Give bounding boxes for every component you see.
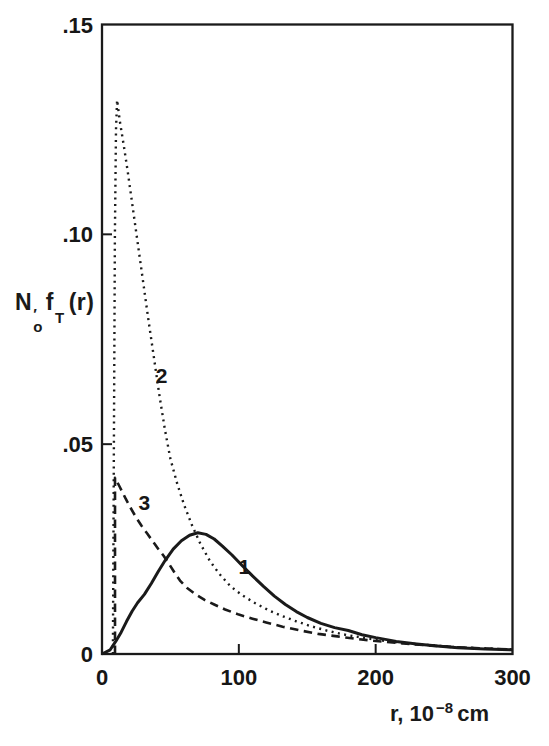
chart-canvas: 01002003000.05.10.15123 — [0, 0, 549, 746]
y-title-sub: o — [33, 320, 43, 333]
y-tick-label: .10 — [62, 222, 93, 247]
y-tick-label: 0 — [81, 642, 93, 667]
figure-root: 01002003000.05.10.15123 N′ofT(r) r, 10−8… — [0, 0, 549, 746]
x-axis-title: r, 10−8cm — [390, 701, 489, 727]
x-title-unit: cm — [457, 701, 489, 726]
y-tick-label: .05 — [62, 432, 93, 457]
x-tick-label: 0 — [96, 665, 108, 690]
y-tick-label: .15 — [62, 13, 93, 38]
x-tick-label: 200 — [357, 665, 394, 690]
x-tick-label: 100 — [220, 665, 257, 690]
y-title-func-sub: T — [55, 309, 65, 326]
y-axis-title: N′ofT(r) — [15, 289, 94, 333]
curve-1 — [102, 533, 513, 654]
y-title-base: N — [15, 289, 32, 315]
plot-frame — [102, 25, 513, 655]
curve-number-label-3: 3 — [139, 491, 151, 514]
x-title-exponent: −8 — [436, 699, 453, 716]
y-title-func: f — [46, 289, 54, 315]
curve-number-label-2: 2 — [156, 364, 168, 387]
curve-number-label-1: 1 — [238, 555, 250, 578]
x-tick-label: 300 — [494, 665, 531, 690]
y-title-prime-sub-stack: ′o — [33, 307, 43, 333]
x-title-lead: r, 10 — [390, 701, 434, 726]
y-title-arg: (r) — [69, 289, 95, 315]
